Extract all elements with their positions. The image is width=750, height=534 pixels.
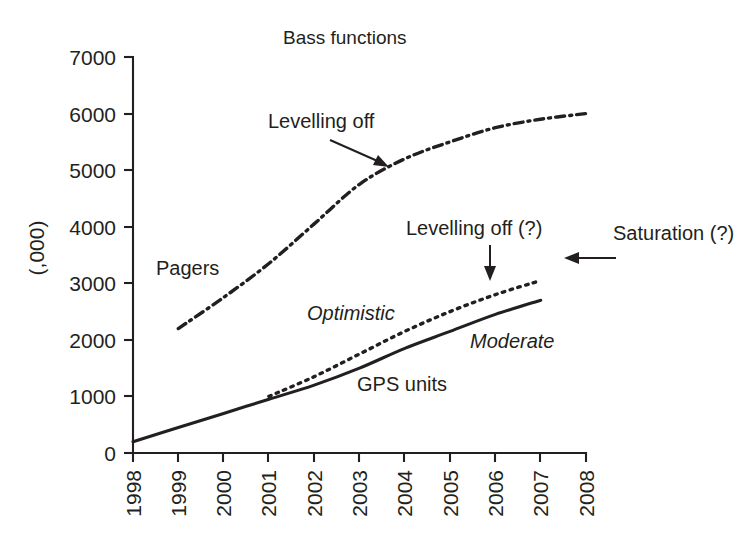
chart-title: Bass functions bbox=[283, 27, 407, 48]
x-tick-label: 2004 bbox=[393, 470, 416, 517]
y-tick-label: 6000 bbox=[69, 103, 116, 126]
y-tick-label: 0 bbox=[104, 442, 116, 465]
x-tick-label: 2001 bbox=[257, 470, 280, 517]
series-label-gps-units: GPS units bbox=[357, 373, 447, 395]
annotation-arrow-saturation-q bbox=[564, 252, 616, 264]
x-tick-label: 2007 bbox=[529, 470, 552, 517]
chart-page: Bass functions (,000) 7000 6000 5000 400… bbox=[0, 0, 750, 534]
y-tick-marks bbox=[124, 57, 133, 453]
x-tick-labels: 1998 1999 2000 2001 2002 2003 2004 2005 … bbox=[122, 470, 598, 517]
series-label-optimistic: Optimistic bbox=[307, 302, 395, 324]
bass-functions-chart: Bass functions (,000) 7000 6000 5000 400… bbox=[0, 0, 750, 534]
y-axis-title: (,000) bbox=[25, 221, 48, 276]
y-tick-label: 2000 bbox=[69, 329, 116, 352]
series-label-pagers: Pagers bbox=[156, 257, 219, 279]
y-tick-label: 4000 bbox=[69, 216, 116, 239]
x-tick-label: 2008 bbox=[575, 470, 598, 517]
y-tick-label: 5000 bbox=[69, 159, 116, 182]
annotation-levelling-off-q: Levelling off (?) bbox=[406, 217, 542, 239]
x-tick-label: 1998 bbox=[122, 470, 145, 517]
y-tick-labels: 7000 6000 5000 4000 3000 2000 1000 0 bbox=[69, 46, 116, 465]
x-tick-label: 2005 bbox=[439, 470, 462, 517]
x-tick-label: 1999 bbox=[167, 470, 190, 517]
annotation-saturation-q: Saturation (?) bbox=[613, 222, 734, 244]
annotation-arrow-levelling-off bbox=[330, 140, 389, 167]
x-tick-label: 2002 bbox=[303, 470, 326, 517]
x-tick-marks bbox=[133, 453, 586, 462]
x-tick-label: 2006 bbox=[484, 470, 507, 517]
series-label-moderate: Moderate bbox=[470, 330, 555, 352]
x-tick-label: 2003 bbox=[348, 470, 371, 517]
annotation-arrow-levelling-off-q bbox=[484, 245, 496, 281]
x-tick-label: 2000 bbox=[212, 470, 235, 517]
annotation-levelling-off: Levelling off bbox=[268, 110, 375, 132]
y-tick-label: 3000 bbox=[69, 272, 116, 295]
y-tick-label: 7000 bbox=[69, 46, 116, 69]
y-tick-label: 1000 bbox=[69, 385, 116, 408]
